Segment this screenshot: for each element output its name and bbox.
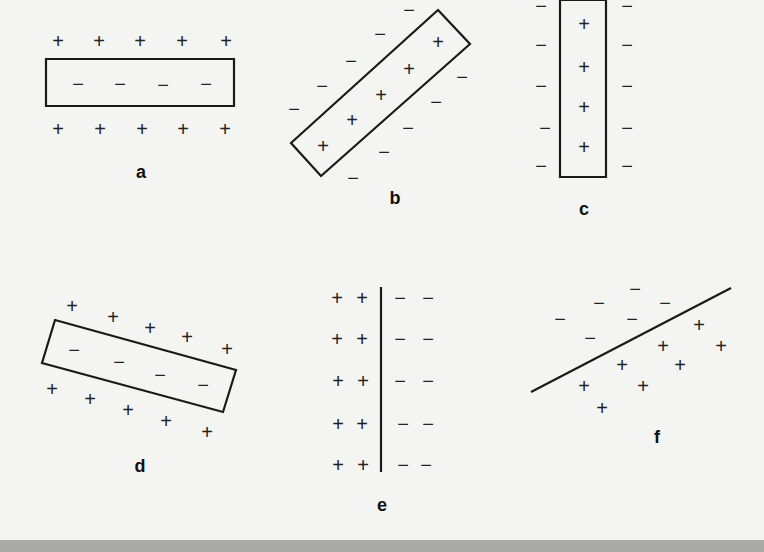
plus-charge-icon: + <box>331 328 343 350</box>
minus-charge-icon: − <box>397 413 409 435</box>
minus-charge-icon: − <box>621 75 633 97</box>
minus-charge-icon: − <box>621 155 633 177</box>
plus-charge-icon: + <box>657 335 669 357</box>
minus-charge-icon: − <box>347 167 359 189</box>
minus-charge-icon: − <box>288 98 300 120</box>
panel-label: f <box>654 427 661 447</box>
minus-charge-icon: − <box>72 73 84 95</box>
minus-charge-icon: − <box>394 328 406 350</box>
plus-charge-icon: + <box>160 410 172 432</box>
plus-charge-icon: + <box>144 317 156 339</box>
bottom-bar <box>0 540 764 552</box>
plus-charge-icon: + <box>66 295 78 317</box>
plus-charge-icon: + <box>637 375 649 397</box>
object-outline <box>42 320 236 412</box>
plus-charge-icon: + <box>616 354 628 376</box>
plus-charge-icon: + <box>136 118 148 140</box>
minus-charge-icon: − <box>621 117 633 139</box>
panel-a: ++++++++++−−−−a <box>46 30 234 182</box>
minus-charge-icon: − <box>394 370 406 392</box>
minus-charge-icon: − <box>345 50 357 72</box>
minus-charge-icon: − <box>68 339 80 361</box>
plus-charge-icon: + <box>332 454 344 476</box>
panel-label: a <box>136 162 147 182</box>
plus-charge-icon: + <box>331 287 343 309</box>
plus-charge-icon: + <box>432 31 444 53</box>
minus-charge-icon: − <box>154 364 166 386</box>
plus-charge-icon: + <box>346 109 358 131</box>
plus-charge-icon: + <box>219 118 231 140</box>
panel-d: ++++++++++−−−−d <box>42 295 236 476</box>
plus-charge-icon: + <box>201 421 213 443</box>
panel-e: ++++++++++−−−−−−−−−−e <box>331 287 434 515</box>
minus-charge-icon: − <box>535 75 547 97</box>
plus-charge-icon: + <box>176 30 188 52</box>
plus-charge-icon: + <box>107 306 119 328</box>
minus-charge-icon: − <box>422 370 434 392</box>
minus-charge-icon: − <box>535 0 547 17</box>
minus-charge-icon: − <box>659 292 671 314</box>
panel-f: ++++++++−−−−−−f <box>531 278 731 447</box>
plus-charge-icon: + <box>578 136 590 158</box>
panel-label: e <box>377 495 387 515</box>
plus-charge-icon: + <box>578 13 590 35</box>
plus-charge-icon: + <box>356 328 368 350</box>
minus-charge-icon: − <box>200 73 212 95</box>
minus-charge-icon: − <box>113 351 125 373</box>
plus-charge-icon: + <box>94 118 106 140</box>
minus-charge-icon: − <box>157 74 169 96</box>
minus-charge-icon: − <box>539 117 551 139</box>
plus-charge-icon: + <box>578 375 590 397</box>
minus-charge-icon: − <box>626 308 638 330</box>
minus-charge-icon: − <box>535 34 547 56</box>
plus-charge-icon: + <box>134 30 146 52</box>
plus-charge-icon: + <box>357 454 369 476</box>
minus-charge-icon: − <box>397 454 409 476</box>
plus-charge-icon: + <box>715 335 727 357</box>
panel-label: d <box>135 456 146 476</box>
plus-charge-icon: + <box>332 370 344 392</box>
plus-charge-icon: + <box>220 30 232 52</box>
plus-charge-icon: + <box>578 96 590 118</box>
plus-charge-icon: + <box>356 287 368 309</box>
plus-charge-icon: + <box>332 413 344 435</box>
plus-charge-icon: + <box>578 56 590 78</box>
plus-charge-icon: + <box>357 370 369 392</box>
minus-charge-icon: − <box>422 328 434 350</box>
plus-charge-icon: + <box>403 58 415 80</box>
minus-charge-icon: − <box>430 91 442 113</box>
plus-charge-icon: + <box>221 338 233 360</box>
minus-charge-icon: − <box>535 155 547 177</box>
plus-charge-icon: + <box>317 135 329 157</box>
plus-charge-icon: + <box>93 30 105 52</box>
minus-charge-icon: − <box>374 23 386 45</box>
minus-charge-icon: − <box>403 0 415 21</box>
minus-charge-icon: − <box>197 374 209 396</box>
minus-charge-icon: − <box>422 287 434 309</box>
minus-charge-icon: − <box>422 413 434 435</box>
boundary-line <box>531 288 731 392</box>
plus-charge-icon: + <box>52 118 64 140</box>
panel-label: b <box>390 188 401 208</box>
minus-charge-icon: − <box>394 287 406 309</box>
plus-charge-icon: + <box>693 314 705 336</box>
minus-charge-icon: − <box>114 73 126 95</box>
panel-c: ++++−−−−−−−−−−c <box>535 0 633 219</box>
minus-charge-icon: − <box>420 454 432 476</box>
minus-charge-icon: − <box>593 292 605 314</box>
plus-charge-icon: + <box>52 30 64 52</box>
minus-charge-icon: − <box>316 75 328 97</box>
charge-distribution-diagram: ++++++++++−−−−a+++++−−−−−−−−−−b++++−−−−−… <box>0 0 764 540</box>
minus-charge-icon: − <box>378 141 390 163</box>
plus-charge-icon: + <box>122 399 134 421</box>
minus-charge-icon: − <box>402 117 414 139</box>
minus-charge-icon: − <box>456 66 468 88</box>
plus-charge-icon: + <box>356 413 368 435</box>
plus-charge-icon: + <box>596 397 608 419</box>
minus-charge-icon: − <box>584 327 596 349</box>
minus-charge-icon: − <box>629 278 641 300</box>
plus-charge-icon: + <box>84 388 96 410</box>
panel-b: +++++−−−−−−−−−−b <box>288 0 470 208</box>
plus-charge-icon: + <box>181 326 193 348</box>
minus-charge-icon: − <box>554 308 566 330</box>
